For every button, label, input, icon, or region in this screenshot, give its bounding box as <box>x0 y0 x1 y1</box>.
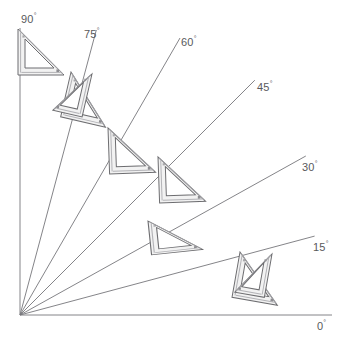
angle-diagram-canvas: 90° 75° 60° 45° 30° 15° 0° <box>0 0 356 350</box>
diagram-svg <box>0 0 356 350</box>
set-square-60 <box>108 126 156 174</box>
label-15: 15° <box>313 238 328 253</box>
label-30: 30° <box>302 158 317 173</box>
label-45: 45° <box>257 78 272 93</box>
label-60: 60° <box>181 33 196 48</box>
label-75: 75° <box>84 25 99 40</box>
set-square-45 <box>158 155 206 203</box>
ray-45 <box>20 80 255 315</box>
set-square-90 <box>18 29 64 75</box>
ray-group <box>20 28 332 315</box>
label-0: 0° <box>317 317 326 332</box>
label-90: 90° <box>21 10 36 25</box>
set-square-30 <box>148 216 203 255</box>
ray-60 <box>20 38 180 315</box>
